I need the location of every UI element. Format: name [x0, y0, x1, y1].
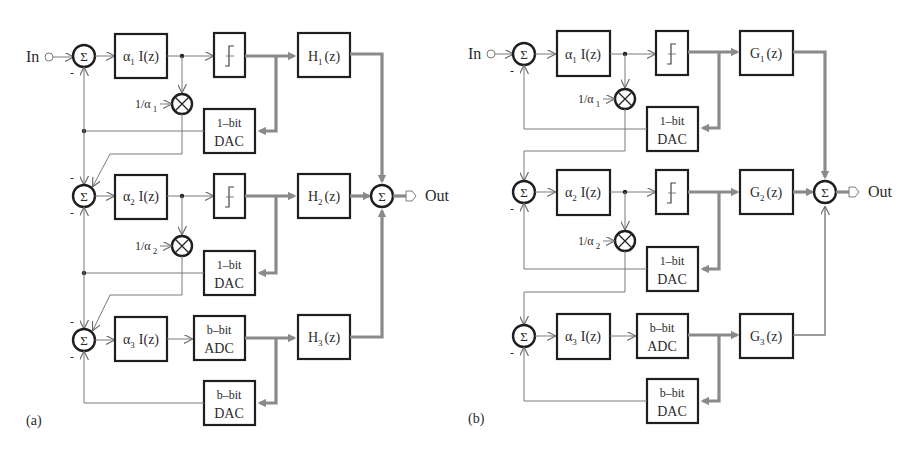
quantizer-block-1: [656, 31, 688, 75]
adc-label-bottom: ADC: [204, 341, 234, 356]
dac-label-bottom: DAC: [657, 272, 687, 287]
stage-3: Σ - α3I(z) b–bit ADC G3(z) b–bit DAC: [510, 314, 793, 423]
dac-label-top: 1–bit: [217, 258, 242, 272]
minus-sign: -: [510, 346, 514, 360]
input-terminal-icon: [45, 53, 53, 61]
sum-symbol: Σ: [520, 47, 528, 62]
dac-label-top: 1–bit: [217, 116, 242, 130]
output-terminal-icon: [849, 187, 859, 197]
scale-label-2: 1/α2: [578, 234, 600, 251]
minus-sign: -: [70, 350, 74, 364]
dac-label-bottom: DAC: [214, 406, 244, 421]
sum-symbol: Σ: [80, 49, 88, 64]
dac-label-top: b–bit: [217, 388, 242, 402]
adc-label-top: b–bit: [207, 323, 232, 337]
stage-3: Σ - - α3I(z) b–bit ADC H3(z) b–bit DAC: [70, 315, 350, 425]
adc-label-bottom: ADC: [647, 339, 677, 354]
output-terminal-icon: [406, 191, 416, 201]
minus-sign: -: [70, 206, 74, 220]
minus-sign: -: [70, 315, 74, 329]
quantizer-block-2: [656, 170, 688, 214]
panel-label-b: (b): [468, 411, 485, 427]
minus-sign: -: [510, 64, 514, 78]
sum-symbol: Σ: [520, 185, 528, 200]
minus-sign: -: [510, 202, 514, 216]
scale-label-1: 1/α1: [578, 92, 600, 109]
dac-label-top: 1–bit: [660, 254, 685, 268]
diagram-b: In Σ - α1I(z) G1(z) 1–bit DAC 1/: [468, 31, 893, 427]
stage-2: Σ - α2I(z) G2(z) 1–bit DAC 1/α2: [510, 170, 812, 324]
output-label: Out: [425, 187, 450, 204]
dac-label-top: b–bit: [660, 386, 685, 400]
dac-label-bottom: DAC: [657, 132, 687, 147]
scale-label-1: 1/α1: [135, 97, 157, 114]
stage-2: Σ - - α2I(z) H2(z) 1–bit DAC 1/α2: [70, 171, 369, 330]
dac-label-bottom: DAC: [657, 404, 687, 419]
sum-symbol: Σ: [80, 333, 88, 348]
panel-label-a: (a): [26, 413, 42, 429]
dac-label-top: 1–bit: [660, 114, 685, 128]
dac-label-bottom: DAC: [214, 276, 244, 291]
mash-modulator-diagrams: In Σ - α1I(z) H1(z) 1–bit DAC 1/: [0, 0, 913, 457]
input-label: In: [26, 48, 39, 65]
scale-label-2: 1/α2: [135, 239, 157, 256]
sum-symbol: Σ: [821, 185, 829, 200]
output-label: Out: [868, 183, 893, 200]
minus-sign: -: [70, 66, 74, 80]
adc-label-top: b–bit: [650, 321, 675, 335]
sum-symbol: Σ: [80, 189, 88, 204]
minus-sign: -: [70, 171, 74, 185]
sum-symbol: Σ: [378, 189, 386, 204]
input-label: In: [468, 45, 481, 62]
stage-1: Σ - α1I(z) H1(z) 1–bit DAC 1/α1: [70, 33, 350, 186]
diagram-a: In Σ - α1I(z) H1(z) 1–bit DAC 1/: [26, 33, 450, 429]
sum-symbol: Σ: [520, 329, 528, 344]
dac-label-bottom: DAC: [214, 134, 244, 149]
input-terminal-icon: [487, 50, 495, 58]
stage-1: Σ - α1I(z) G1(z) 1–bit DAC 1/α1: [510, 31, 793, 180]
